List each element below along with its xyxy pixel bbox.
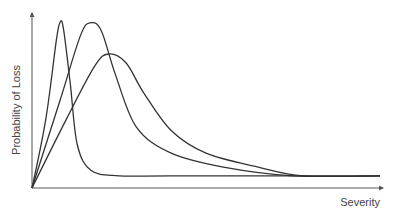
x-axis-label: Severity	[340, 196, 380, 208]
series-line-curve-wide	[32, 54, 380, 188]
y-axis-label: Probability of Loss	[10, 65, 22, 155]
series-line-curve-narrow	[32, 21, 380, 188]
loss-distribution-chart: Severity Probability of Loss	[0, 0, 394, 218]
curves-group	[32, 21, 380, 188]
